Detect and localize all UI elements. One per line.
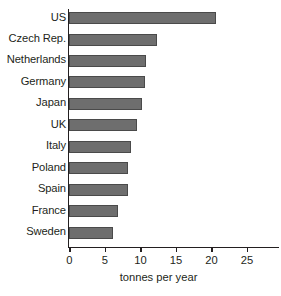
bar	[69, 184, 127, 196]
bar	[69, 119, 136, 131]
bar-category-label: US	[0, 11, 66, 24]
bar-category-label: UK	[0, 118, 66, 131]
bar-row: Japan	[0, 95, 281, 116]
bar-category-label: Germany	[0, 75, 66, 88]
bar-row: Germany	[0, 74, 281, 95]
x-axis-tick	[211, 248, 212, 252]
bar	[69, 55, 146, 67]
plot-area: USCzech Rep.NetherlandsGermanyJapanUKIta…	[0, 0, 281, 296]
x-axis-tick	[140, 248, 141, 252]
bar-row: Netherlands	[0, 52, 281, 73]
bar-category-label: Japan	[0, 96, 66, 109]
x-axis-tick	[247, 248, 248, 252]
bar-row: UK	[0, 117, 281, 138]
bar-category-label: Sweden	[0, 225, 66, 238]
x-axis-title: tonnes per year	[0, 270, 281, 284]
x-axis-tick	[69, 248, 70, 252]
x-axis-tick-label: 5	[90, 253, 120, 267]
bar-chart: USCzech Rep.NetherlandsGermanyJapanUKIta…	[0, 0, 281, 296]
x-axis-tick-label: 15	[161, 253, 191, 267]
bar-row: Czech Rep.	[0, 31, 281, 52]
bar-category-label: Spain	[0, 182, 66, 195]
bar-row: Poland	[0, 160, 281, 181]
x-axis-tick-label: 25	[232, 253, 262, 267]
bar-row: France	[0, 203, 281, 224]
bar-category-label: Poland	[0, 161, 66, 174]
x-axis-tick	[105, 248, 106, 252]
bar	[69, 227, 113, 239]
bar-row: Sweden	[0, 224, 281, 245]
bar	[69, 76, 144, 88]
x-axis-tick-label: 20	[196, 253, 226, 267]
bar	[69, 141, 131, 153]
x-axis-tick-label: 10	[125, 253, 155, 267]
bar	[69, 205, 118, 217]
bar-category-label: Czech Rep.	[0, 32, 66, 45]
bar	[69, 34, 156, 46]
bar-row: Italy	[0, 138, 281, 159]
bar-category-label: France	[0, 204, 66, 217]
x-axis-tick	[176, 248, 177, 252]
bar-row: Spain	[0, 181, 281, 202]
bar	[69, 162, 127, 174]
bar-category-label: Italy	[0, 139, 66, 152]
bar-category-label: Netherlands	[0, 53, 66, 66]
bar	[69, 12, 216, 24]
bar-row: US	[0, 10, 281, 31]
bar	[69, 98, 141, 110]
x-axis-tick-label: 0	[54, 253, 84, 267]
